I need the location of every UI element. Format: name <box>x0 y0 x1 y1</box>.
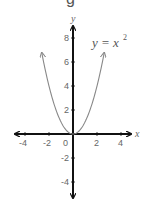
svg-text:y = x: y = x <box>90 35 119 50</box>
x-tick-label: 2 <box>94 138 99 148</box>
x-tick-label: 4 <box>118 138 123 148</box>
x-tick-label: -4 <box>19 138 27 148</box>
x-tick-label: -2 <box>43 138 51 148</box>
y-tick-label: 2 <box>64 105 69 115</box>
parabola-chart: g x y -4 -2 0 2 4 8 6 4 2 -2 -4 <box>0 0 148 205</box>
cropped-title-fragment: g <box>66 0 75 7</box>
parabola-right-branch <box>73 53 104 134</box>
equation-label: y = x 2 <box>90 33 127 50</box>
x-tick-label: 0 <box>63 138 68 148</box>
y-tick-label: -2 <box>61 153 69 163</box>
y-axis-label: y <box>70 13 76 24</box>
y-tick-label: -4 <box>61 177 69 187</box>
x-axis-label: x <box>134 128 140 139</box>
y-tick-label: 8 <box>64 33 69 43</box>
svg-text:2: 2 <box>123 33 127 42</box>
y-tick-label: 4 <box>64 81 69 91</box>
y-tick-label: 6 <box>64 57 69 67</box>
